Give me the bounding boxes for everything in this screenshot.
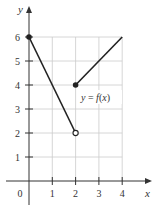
function-graph: 01234123456 xyy = f(x): [0, 0, 160, 220]
y-tick-label: 4: [15, 80, 20, 91]
x-tick-label: 1: [50, 188, 55, 199]
closed-endpoint: [26, 34, 32, 40]
closed-endpoint: [73, 82, 79, 88]
y-tick-label: 1: [15, 152, 20, 163]
labels: xyy = f(x): [17, 3, 150, 199]
grid: [29, 37, 122, 181]
x-tick-label: 2: [73, 188, 78, 199]
x-axis-label: x: [144, 187, 150, 199]
x-tick-label: 3: [96, 188, 101, 199]
y-tick-label: 2: [15, 128, 20, 139]
y-tick-label: 3: [15, 104, 20, 115]
x-tick-label: 4: [120, 188, 125, 199]
function-label: y = f(x): [80, 92, 110, 104]
y-axis-arrow-icon: [26, 6, 32, 13]
y-tick-label: 5: [15, 56, 20, 67]
y-tick-label: 6: [15, 32, 20, 43]
ticks: 01234123456: [15, 32, 125, 200]
open-endpoint: [73, 130, 78, 135]
x-tick-label: 0: [18, 188, 23, 199]
y-axis-label: y: [17, 3, 23, 15]
x-axis-arrow-icon: [145, 178, 152, 184]
